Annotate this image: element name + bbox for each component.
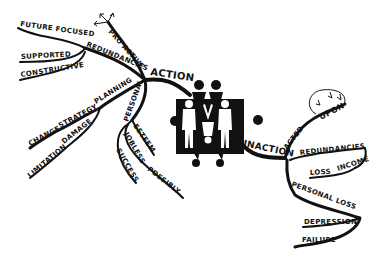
future-focused-label: FUTURE FOCUSED [20,20,95,38]
limitation-label: LIMITATION [26,143,68,180]
constructive-label: CONSTRUCTIVE [20,61,85,79]
depression-label: DEPRESSION [304,218,357,226]
action-main-branch [145,80,190,95]
mind-map-canvas: ACTION PRO ACTIVE REDUNDANCIES FUTURE FO… [0,0,380,258]
loss-label: LOSS [310,168,332,177]
failure-label: FAILURE [302,236,336,244]
upon-label: UPON [318,101,346,122]
change-label: CHANGE [27,124,61,147]
possibly-label: POSSIBLY [146,165,183,196]
acted-label: ACTED [282,125,305,152]
inaction-redundancies-label: REDUNDANCIES [299,142,365,157]
family-group-icon [170,80,263,167]
